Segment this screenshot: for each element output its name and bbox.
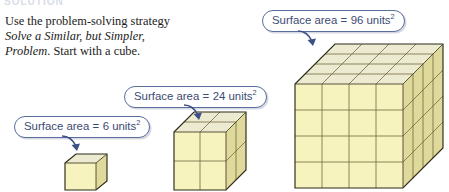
callout-96-value: 96 xyxy=(351,14,364,26)
large-cube xyxy=(293,40,445,192)
instruction-line-3-tail: . Start with a cube. xyxy=(47,44,140,58)
callout-6-equals: = xyxy=(92,120,99,132)
callout-96-prefix: Surface area xyxy=(272,14,337,26)
callout-96-exponent: 2 xyxy=(391,12,395,21)
small-cube xyxy=(63,152,109,192)
callout-6-exponent: 2 xyxy=(136,118,140,127)
callout-6-value: 6 xyxy=(103,120,109,132)
medium-cube xyxy=(172,110,248,192)
callout-24-prefix: Surface area xyxy=(134,90,199,102)
callout-96-unit: units xyxy=(366,14,390,26)
instruction-text: Use the problem-solving strategy Solve a… xyxy=(5,14,223,60)
callout-surface-area-96[interactable]: Surface area = 96 units2 xyxy=(262,10,405,32)
callout-24-unit: units xyxy=(228,90,252,102)
callout-96-equals: = xyxy=(340,14,347,26)
strategy-name-line-2: Problem xyxy=(5,44,47,58)
instruction-line-1: Use the problem-solving strategy xyxy=(5,14,170,28)
callout-6-prefix: Surface area xyxy=(24,120,89,132)
callout-surface-area-6[interactable]: Surface area = 6 units2 xyxy=(14,116,150,138)
callout-24-exponent: 2 xyxy=(253,88,257,97)
callout-surface-area-24[interactable]: Surface area = 24 units2 xyxy=(124,86,267,108)
strategy-name-line-1: Solve a Similar, but Simpler, xyxy=(5,29,145,43)
callout-24-equals: = xyxy=(202,90,209,102)
clipped-section-heading: SOLUTION xyxy=(4,0,124,5)
figure-stage: SOLUTION Use the problem-solving strateg… xyxy=(0,0,449,192)
callout-24-value: 24 xyxy=(213,90,226,102)
callout-6-unit: units xyxy=(112,120,136,132)
